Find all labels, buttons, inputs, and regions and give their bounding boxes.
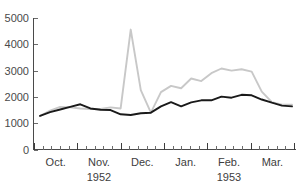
- series-line-series-gray: [40, 30, 292, 117]
- chart-container: 010002000300040005000 Oct.Nov.Dec.Jan.Fe…: [0, 0, 304, 187]
- month-label: Oct.: [46, 156, 66, 168]
- month-label: Feb.: [218, 156, 240, 168]
- data-series-group: [40, 30, 292, 117]
- y-axis-ticks: [34, 19, 39, 151]
- y-axis-tick-labels: 010002000300040005000: [5, 12, 29, 156]
- y-tick-label: 1000: [5, 117, 29, 129]
- x-axis-ticks: [35, 143, 295, 150]
- year-label: 1952: [87, 171, 111, 183]
- month-label: Nov.: [88, 156, 110, 168]
- year-label: 1953: [217, 171, 241, 183]
- series-line-series-black: [40, 95, 292, 116]
- y-tick-label: 4000: [5, 38, 29, 50]
- month-label: Mar.: [262, 156, 283, 168]
- line-chart: 010002000300040005000 Oct.Nov.Dec.Jan.Fe…: [0, 0, 304, 187]
- y-tick-label: 3000: [5, 65, 29, 77]
- month-label: Dec.: [131, 156, 154, 168]
- y-tick-label: 2000: [5, 91, 29, 103]
- month-label: Jan.: [175, 156, 196, 168]
- x-axis-month-labels: Oct.Nov.Dec.Jan.Feb.Mar.: [46, 156, 283, 168]
- x-axis-year-labels: 19521953: [87, 171, 241, 183]
- y-tick-label: 0: [23, 144, 29, 156]
- y-tick-label: 5000: [5, 12, 29, 24]
